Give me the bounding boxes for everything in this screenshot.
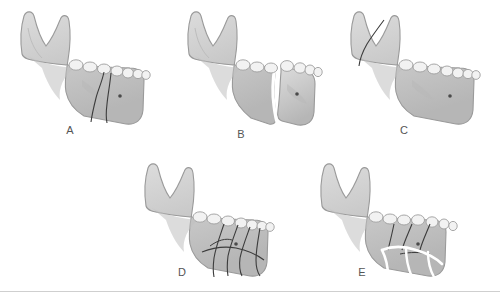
tooth: [207, 214, 221, 224]
tooth: [266, 223, 274, 232]
mental-foramen-marker: [448, 94, 452, 98]
tooth: [383, 214, 397, 224]
bone-body-a: [21, 12, 144, 124]
tooth: [398, 215, 411, 225]
mandible-diagram-e: [308, 158, 478, 280]
bottom-divider: [0, 291, 500, 292]
tooth: [193, 212, 207, 222]
panel-label-b: B: [231, 128, 251, 140]
panel-label-c: C: [394, 124, 414, 136]
panel-label-e: E: [352, 266, 372, 278]
tooth: [449, 221, 457, 230]
mental-foramen-marker: [295, 92, 299, 96]
panel-label-d: D: [172, 266, 192, 278]
tooth: [281, 61, 294, 72]
tooth: [69, 60, 83, 70]
tooth: [250, 62, 264, 72]
tooth: [369, 212, 383, 222]
panel-c: C: [338, 6, 498, 126]
bone-body-c: [351, 12, 474, 124]
mandible-diagram-a: [8, 6, 168, 126]
bone-body-d: [145, 164, 268, 276]
tooth: [428, 64, 441, 74]
panel-b: B: [175, 6, 335, 130]
mandible-outline-c: [351, 12, 474, 124]
mandible-diagram-c: [338, 6, 498, 126]
tooth: [236, 60, 250, 70]
tooth: [453, 68, 464, 78]
panel-d: D: [132, 158, 292, 280]
tooth: [314, 67, 322, 76]
tooth: [413, 62, 427, 72]
tooth: [111, 66, 123, 76]
tooth: [426, 217, 438, 227]
tooth: [305, 65, 315, 75]
tooth: [439, 219, 449, 229]
panel-label-a: A: [60, 124, 80, 136]
mental-foramen-marker: [416, 242, 420, 246]
tooth: [399, 60, 413, 70]
panel-e: E: [308, 158, 478, 280]
tooth: [247, 220, 258, 230]
mandible-outline-a: [21, 12, 144, 124]
mental-foramen-marker: [234, 242, 238, 246]
tooth: [294, 63, 306, 73]
tooth: [441, 66, 453, 76]
bone-distal-fragment-b: [278, 68, 315, 125]
mandible-outline-d: [145, 164, 268, 276]
tooth: [142, 71, 150, 80]
tooth: [265, 63, 278, 73]
figure-root: A: [0, 0, 500, 299]
tooth: [123, 68, 134, 78]
mental-foramen-marker: [118, 94, 122, 98]
tooth: [472, 71, 480, 80]
tooth: [235, 218, 247, 228]
mandible-diagram-b: [175, 6, 335, 130]
tooth: [412, 215, 425, 225]
panel-a: A: [8, 6, 168, 126]
tooth: [83, 62, 97, 72]
mandible-diagram-d: [132, 158, 292, 280]
